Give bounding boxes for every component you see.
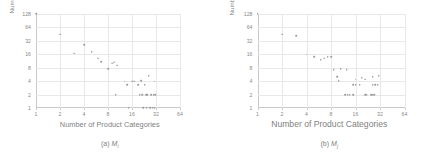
x-tick-label: 32 <box>153 111 159 117</box>
x-tickmark <box>132 108 133 110</box>
x-axis-title-a: Number of Product Categories <box>0 120 220 129</box>
x-gridline <box>180 14 181 108</box>
scatter-point <box>147 94 149 96</box>
scatter-point <box>296 35 298 37</box>
scatter-point <box>124 80 126 82</box>
x-tickmark <box>307 108 308 110</box>
y-axis-title-b: Number of Vendors <box>228 0 240 28</box>
scatter-point <box>333 69 335 71</box>
y-gridline <box>36 27 180 28</box>
x-tick-label: 64 <box>402 111 408 117</box>
scatter-point <box>137 84 139 86</box>
scatter-point <box>154 80 156 82</box>
y-axis-title-a: Number of Vendors <box>8 0 20 26</box>
scatter-point <box>133 80 135 82</box>
x-tick-label: 2 <box>59 111 62 117</box>
scatter-point <box>372 84 374 86</box>
y-tick-label: 8 <box>250 65 253 71</box>
x-tickmark <box>258 108 259 110</box>
x-tick-label: 16 <box>129 111 135 117</box>
scatter-point <box>154 107 156 109</box>
x-tick-label: 4 <box>305 111 308 117</box>
caption-subscript-b: j <box>337 144 338 149</box>
scatter-point <box>127 84 129 86</box>
y-gridline <box>258 81 405 82</box>
scatter-point <box>146 107 148 109</box>
y-gridline <box>36 54 180 55</box>
y-gridline <box>36 81 180 82</box>
scatter-point <box>117 65 119 67</box>
y-gridline <box>36 14 180 15</box>
scatter-point <box>374 84 376 86</box>
y-gridline <box>36 95 180 96</box>
scatter-point <box>338 80 340 82</box>
x-tickmark <box>331 108 332 110</box>
x-tickmark <box>36 108 37 110</box>
scatter-point <box>377 84 379 86</box>
x-tick-label: 16 <box>353 111 359 117</box>
y-tick-label: 4 <box>250 78 253 84</box>
y-tick-label: 64 <box>25 24 31 30</box>
y-tick-label: 2 <box>250 92 253 98</box>
y-gridline <box>258 41 405 42</box>
y-tick-label: 16 <box>247 51 253 57</box>
x-tickmark <box>405 108 406 110</box>
y-gridline <box>258 95 405 96</box>
scatter-point <box>327 56 329 58</box>
scatter-point <box>355 84 357 86</box>
scatter-point <box>59 33 61 35</box>
scatter-point <box>128 107 130 109</box>
y-tick-label: 1 <box>28 105 31 111</box>
scatter-point <box>320 59 322 61</box>
scatter-point <box>91 51 93 53</box>
scatter-point <box>257 13 259 15</box>
y-tick-label: 1 <box>250 105 253 111</box>
scatter-point <box>141 80 143 82</box>
scatter-point <box>155 94 157 96</box>
scatter-point <box>314 56 316 58</box>
x-tick-label: 2 <box>281 111 284 117</box>
x-tick-label: 64 <box>177 111 183 117</box>
x-tickmark <box>356 108 357 110</box>
x-tickmark <box>84 108 85 110</box>
scatter-point <box>346 69 348 71</box>
scatter-point <box>73 52 75 54</box>
scatter-point <box>139 94 141 96</box>
scatter-point <box>352 94 354 96</box>
scatter-point <box>141 94 143 96</box>
scatter-point <box>372 76 374 78</box>
scatter-point <box>349 94 351 96</box>
y-tick-label: 4 <box>28 78 31 84</box>
y-tick-label: 2 <box>28 92 31 98</box>
y-tick-label: 16 <box>25 51 31 57</box>
figure-container: Number of Vendors 1248163264124816326412… <box>0 0 439 160</box>
scatter-point <box>359 84 361 86</box>
scatter-point <box>361 77 363 79</box>
scatter-point <box>355 79 357 81</box>
scatter-point <box>378 75 380 77</box>
scatter-point <box>364 79 366 81</box>
x-tickmark <box>180 108 181 110</box>
caption-subscript-a: i <box>117 144 118 149</box>
scatter-point <box>281 33 283 35</box>
y-gridline <box>36 41 180 42</box>
x-tickmark <box>380 108 381 110</box>
scatter-point <box>340 68 342 70</box>
x-tick-label: 8 <box>330 111 333 117</box>
x-tick-label: 1 <box>256 111 259 117</box>
panel-caption-b: (b) Mj <box>220 140 439 149</box>
plot-area-b: 12481632641248163264128 <box>258 14 405 108</box>
y-gridline <box>258 68 405 69</box>
scatter-point <box>336 76 338 78</box>
y-tick-label: 32 <box>25 38 31 44</box>
x-tick-label: 1 <box>35 111 38 117</box>
x-tick-label: 32 <box>377 111 383 117</box>
scatter-point <box>373 94 375 96</box>
scatter-point <box>101 61 103 63</box>
y-gridline <box>258 27 405 28</box>
scatter-point <box>148 75 150 77</box>
x-tickmark <box>282 108 283 110</box>
scatter-point <box>323 58 325 60</box>
scatter-point <box>107 68 109 70</box>
scatter-point <box>142 107 144 109</box>
